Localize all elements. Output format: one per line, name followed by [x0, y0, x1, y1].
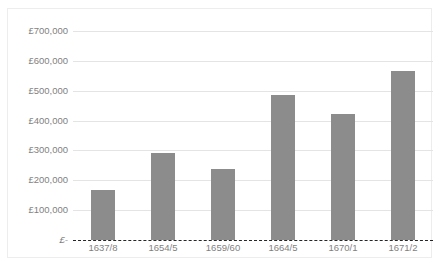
y-tick-label-300000: £300,000 — [8, 146, 68, 156]
bar-slot — [73, 31, 133, 240]
bar-1659-60[interactable] — [211, 169, 235, 240]
y-tick-label-100000: £100,000 — [8, 205, 68, 215]
x-tick-label-1670-1: 1670/1 — [313, 243, 373, 253]
y-axis: £700,000 £600,000 £500,000 £400,000 £300… — [8, 31, 68, 240]
y-tick-label-zero: £- — [8, 235, 68, 245]
bar-1670-1[interactable] — [331, 114, 355, 240]
zero-baseline — [73, 240, 433, 241]
bar-1664-5[interactable] — [271, 95, 295, 240]
bar-slot — [193, 31, 253, 240]
y-tick-label-600000: £600,000 — [8, 56, 68, 66]
x-axis: 1637/8 1654/5 1659/60 1664/5 1670/1 1671… — [73, 243, 433, 261]
bar-slot — [313, 31, 373, 240]
bar-1637-8[interactable] — [91, 190, 115, 240]
x-tick-label-1654-5: 1654/5 — [133, 243, 193, 253]
bar-slot — [253, 31, 313, 240]
bar-slot — [373, 31, 433, 240]
bar-slot — [133, 31, 193, 240]
y-tick-label-400000: £400,000 — [8, 116, 68, 126]
y-tick-label-700000: £700,000 — [8, 26, 68, 36]
x-tick-label-1637-8: 1637/8 — [73, 243, 133, 253]
y-tick-label-200000: £200,000 — [8, 176, 68, 186]
y-tick-label-500000: £500,000 — [8, 86, 68, 96]
plot-area — [73, 31, 433, 240]
bar-1671-2[interactable] — [391, 71, 415, 240]
bar-1654-5[interactable] — [151, 153, 175, 240]
x-tick-label-1671-2: 1671/2 — [373, 243, 433, 253]
x-tick-label-1659-60: 1659/60 — [193, 243, 253, 253]
x-tick-label-1664-5: 1664/5 — [253, 243, 313, 253]
chart-frame: £700,000 £600,000 £500,000 £400,000 £300… — [7, 8, 432, 258]
